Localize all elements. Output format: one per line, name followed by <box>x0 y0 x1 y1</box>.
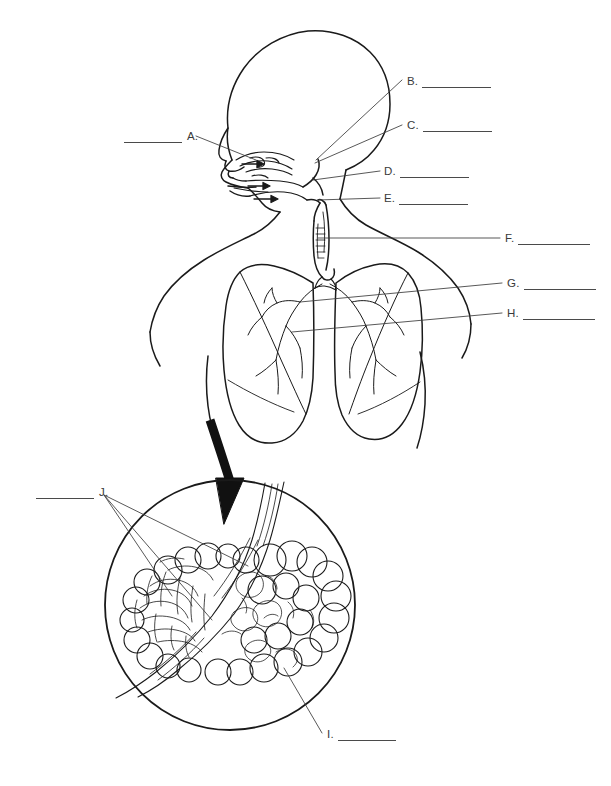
label-letter-d: D. <box>384 165 396 178</box>
leader-line-j2 <box>104 495 172 596</box>
leader-line-c <box>315 125 402 163</box>
bronchial-tree-right <box>248 284 322 394</box>
worksheet-page: A. B. C. D. E. F. G. H. I. J. <box>0 0 611 786</box>
label-i[interactable]: I. <box>327 728 396 741</box>
magnification-arrow <box>210 420 244 524</box>
label-b[interactable]: B. <box>407 75 491 88</box>
bronchial-tree-left <box>330 284 404 394</box>
answer-blank-j[interactable] <box>36 487 94 499</box>
leader-line-e <box>318 198 380 200</box>
label-letter-i: I. <box>327 728 334 741</box>
answer-blank-d[interactable] <box>400 166 469 178</box>
answer-blank-h[interactable] <box>523 308 595 320</box>
label-d[interactable]: D. <box>384 165 469 178</box>
alveolar-sacs <box>120 541 351 685</box>
label-letter-a: A. <box>187 130 198 143</box>
label-a[interactable]: A. <box>124 130 198 143</box>
label-j[interactable]: J. <box>36 486 108 499</box>
right-lung <box>223 265 314 443</box>
leader-line-a <box>196 136 256 160</box>
pharynx-larynx <box>303 159 323 221</box>
answer-blank-e[interactable] <box>399 193 468 205</box>
respiratory-system-figure <box>0 0 611 786</box>
answer-blank-c[interactable] <box>423 120 492 132</box>
answer-blank-g[interactable] <box>524 278 596 290</box>
label-letter-e: E. <box>384 192 395 205</box>
label-e[interactable]: E. <box>384 192 468 205</box>
label-c[interactable]: C. <box>407 119 492 132</box>
answer-blank-f[interactable] <box>518 233 590 245</box>
leader-line-i <box>284 668 322 733</box>
leader-line-d <box>313 171 380 180</box>
left-lung <box>335 264 423 440</box>
label-letter-g: G. <box>507 277 520 290</box>
answer-blank-b[interactable] <box>422 76 491 88</box>
label-g[interactable]: G. <box>507 277 596 290</box>
label-h[interactable]: H. <box>507 307 595 320</box>
label-letter-h: H. <box>507 307 519 320</box>
label-letter-c: C. <box>407 119 419 132</box>
label-letter-j: J. <box>99 486 108 499</box>
label-letter-f: F. <box>505 232 514 245</box>
label-f[interactable]: F. <box>505 232 590 245</box>
label-letter-b: B. <box>407 75 418 88</box>
answer-blank-a[interactable] <box>124 131 182 143</box>
answer-blank-i[interactable] <box>338 729 396 741</box>
